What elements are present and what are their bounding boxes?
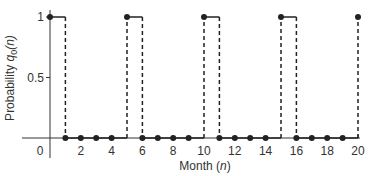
data-point xyxy=(232,135,238,141)
data-point xyxy=(201,14,207,20)
y-ticks: 0.51 xyxy=(27,10,50,85)
x-axis-label: Month (n) xyxy=(179,159,230,173)
data-point xyxy=(170,135,176,141)
data-point xyxy=(247,135,253,141)
data-point xyxy=(139,135,145,141)
data-point xyxy=(309,135,315,141)
axes xyxy=(22,10,360,158)
data-point xyxy=(340,135,346,141)
y-tick-label: 0.5 xyxy=(27,71,44,85)
data-point xyxy=(155,135,161,141)
data-point xyxy=(293,135,299,141)
probability-chart: 0.51 02468101214161820 Month (n) Probabi… xyxy=(0,0,380,176)
y-axis-label: Probability q0(n) xyxy=(3,35,19,121)
data-point xyxy=(324,135,330,141)
data-point xyxy=(263,135,269,141)
data-point xyxy=(93,135,99,141)
x-tick-label: 20 xyxy=(351,144,365,158)
data-point xyxy=(109,135,115,141)
x-tick-label: 14 xyxy=(259,144,273,158)
x-tick-label: 0 xyxy=(37,144,44,158)
data-point xyxy=(47,14,53,20)
data-series xyxy=(47,14,361,141)
data-point xyxy=(278,14,284,20)
data-point xyxy=(124,14,130,20)
x-tick-label: 18 xyxy=(321,144,335,158)
data-point xyxy=(62,135,68,141)
y-tick-label: 1 xyxy=(37,10,44,24)
x-tick-label: 12 xyxy=(228,144,242,158)
x-tick-label: 16 xyxy=(290,144,304,158)
data-point xyxy=(216,135,222,141)
x-tick-label: 2 xyxy=(77,144,84,158)
x-tick-label: 10 xyxy=(197,144,211,158)
x-tick-label: 8 xyxy=(170,144,177,158)
data-point xyxy=(355,14,361,20)
data-point xyxy=(186,135,192,141)
data-point xyxy=(78,135,84,141)
x-tick-label: 4 xyxy=(108,144,115,158)
x-tick-label: 6 xyxy=(139,144,146,158)
